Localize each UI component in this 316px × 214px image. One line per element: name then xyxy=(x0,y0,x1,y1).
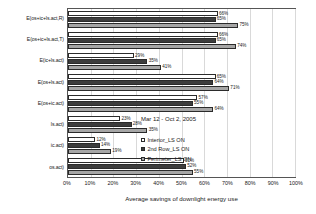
bar-row: 64% xyxy=(68,80,295,85)
bar-value-label: 65% xyxy=(217,17,226,22)
bar xyxy=(68,116,120,121)
category-label: os.act) xyxy=(0,157,67,178)
legend-item: Perimeter_LS ON xyxy=(141,156,192,162)
category-label: E(os+ic+ls.act,R) xyxy=(0,8,67,29)
legend-item: Interior_LS ON xyxy=(141,137,192,143)
bar-row: 29% xyxy=(68,53,295,58)
bar-row: 71% xyxy=(68,86,295,91)
bar xyxy=(68,164,186,169)
x-axis-title: Average savings of downlight energy use xyxy=(67,195,296,202)
bar xyxy=(68,143,100,148)
x-tick-label: 100% xyxy=(289,180,303,186)
bar xyxy=(68,137,95,142)
category-label: E(ic+ls.act) xyxy=(0,51,67,72)
bar-row: 55% xyxy=(68,170,295,175)
bar xyxy=(68,59,147,64)
bar xyxy=(68,44,236,49)
bar-value-label: 41% xyxy=(162,65,171,70)
bar xyxy=(68,107,213,112)
x-tick-label: 80% xyxy=(245,180,256,186)
bar-value-label: 55% xyxy=(194,170,203,175)
x-tick-label: 60% xyxy=(199,180,210,186)
x-tick-label: 90% xyxy=(268,180,279,186)
bar xyxy=(68,122,132,127)
legend-label: Perimeter_LS ON xyxy=(147,156,191,162)
bar-row: 65% xyxy=(68,74,295,79)
bar-value-label: 19% xyxy=(112,149,121,154)
bar xyxy=(68,101,193,106)
gridline xyxy=(295,9,296,177)
bar xyxy=(68,17,216,22)
bar-value-label: 65% xyxy=(217,38,226,43)
category-label: ic.act) xyxy=(0,136,67,157)
bar xyxy=(68,149,111,154)
bar-row: 75% xyxy=(68,23,295,28)
bar-value-label: 74% xyxy=(237,44,246,49)
x-tick-label: 50% xyxy=(176,180,187,186)
bar-value-label: 14% xyxy=(101,143,110,148)
legend-swatch-icon xyxy=(141,147,145,151)
category-label: ls.act) xyxy=(0,114,67,135)
x-tick-label: 20% xyxy=(107,180,118,186)
bar-row: 66% xyxy=(68,11,295,16)
date-annotation: Mar 12 - Oct 2, 2005 xyxy=(141,116,196,122)
bar xyxy=(68,23,238,28)
x-tick-label: 70% xyxy=(222,180,233,186)
bar-row: 57% xyxy=(68,95,295,100)
bar-row: 55% xyxy=(68,101,295,106)
bar-group: 57%55%64% xyxy=(68,93,295,114)
bar-group: 66%65%75% xyxy=(68,9,295,30)
category-label: E(os+ic.act) xyxy=(0,93,67,114)
bar xyxy=(68,32,218,37)
bar xyxy=(68,80,213,85)
bar-group: 65%64%71% xyxy=(68,72,295,93)
bar-value-label: 23% xyxy=(121,117,130,122)
x-tick-label: 0% xyxy=(63,180,71,186)
bar-chart: E(os+ic+ls.act,R)E(os+ic+ls.act,T)E(ic+l… xyxy=(0,0,316,214)
bar-row: 52% xyxy=(68,164,295,169)
bar-value-label: 28% xyxy=(133,122,142,127)
bar xyxy=(68,74,216,79)
bar xyxy=(68,11,218,16)
x-tick-label: 30% xyxy=(130,180,141,186)
bar-row: 35% xyxy=(68,59,295,64)
bar-row: 28% xyxy=(68,122,295,127)
category-axis: E(os+ic+ls.act,R)E(os+ic+ls.act,T)E(ic+l… xyxy=(0,8,67,178)
bar-value-label: 64% xyxy=(214,80,223,85)
bar xyxy=(68,128,147,133)
bar xyxy=(68,38,216,43)
bar-value-label: 71% xyxy=(230,86,239,91)
legend-item: 2nd Row_LS ON xyxy=(141,146,192,152)
bar-row: 35% xyxy=(68,128,295,133)
bar-value-label: 64% xyxy=(214,107,223,112)
x-tick-label: 40% xyxy=(153,180,164,186)
bar-value-label: 55% xyxy=(194,101,203,106)
bar-value-label: 75% xyxy=(239,23,248,28)
bar-row: 74% xyxy=(68,44,295,49)
category-label: E(os+ic+ls.act,T) xyxy=(0,29,67,50)
bar-row: 66% xyxy=(68,32,295,37)
legend-swatch-icon xyxy=(141,138,145,142)
category-label: E(os+ls.act) xyxy=(0,72,67,93)
bar xyxy=(68,65,161,70)
legend-swatch-icon xyxy=(141,157,145,161)
legend-label: 2nd Row_LS ON xyxy=(147,146,189,152)
x-axis: 0%10%20%30%40%50%60%70%80%90%100% xyxy=(67,179,296,191)
legend: Interior_LS ON2nd Row_LS ONPerimeter_LS … xyxy=(141,137,192,162)
bar-row: 64% xyxy=(68,107,295,112)
bar-row: 65% xyxy=(68,17,295,22)
bar-value-label: 29% xyxy=(135,54,144,59)
bar-row: 41% xyxy=(68,65,295,70)
bar xyxy=(68,95,197,100)
x-tick-label: 10% xyxy=(84,180,95,186)
bar xyxy=(68,53,134,58)
bar-value-label: 35% xyxy=(149,59,158,64)
bar xyxy=(68,170,193,175)
bar-row: 65% xyxy=(68,38,295,43)
bar-group: 29%35%41% xyxy=(68,51,295,72)
bar-group: 66%65%74% xyxy=(68,30,295,51)
bar xyxy=(68,86,229,91)
legend-label: Interior_LS ON xyxy=(147,137,184,143)
bar-value-label: 35% xyxy=(149,128,158,133)
